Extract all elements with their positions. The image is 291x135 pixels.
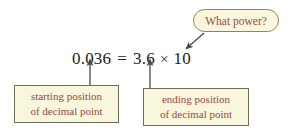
equation: 0.036=3.6×10 bbox=[72, 44, 191, 69]
starting-position-line-1: starting position bbox=[31, 89, 102, 104]
ending-position-line-1: ending position bbox=[162, 92, 230, 107]
equation-left-value: 0.036 bbox=[72, 49, 111, 68]
ending-position-line-2: of decimal point bbox=[160, 107, 232, 122]
equation-equals-sign: = bbox=[117, 49, 127, 68]
diagram-canvas: 0.036=3.6×10 What power? starting positi… bbox=[0, 0, 291, 135]
ending-position-box: ending position of decimal point bbox=[143, 88, 249, 126]
equation-base: 10 bbox=[174, 49, 191, 68]
starting-position-box: starting position of decimal point bbox=[14, 85, 119, 123]
starting-position-line-2: of decimal point bbox=[30, 104, 102, 119]
equation-mantissa: 3.6 bbox=[133, 49, 155, 68]
what-power-callout: What power? bbox=[193, 9, 279, 32]
equation-times-sign: × bbox=[160, 51, 169, 67]
what-power-callout-label: What power? bbox=[205, 15, 267, 27]
